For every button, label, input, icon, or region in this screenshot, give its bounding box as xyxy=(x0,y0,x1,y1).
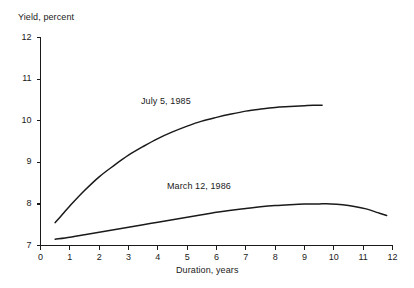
y-tick-label-7: 7 xyxy=(12,240,32,250)
axes-group xyxy=(37,38,393,250)
x-tick-label-3: 3 xyxy=(119,252,139,262)
x-tick-label-12: 12 xyxy=(383,252,403,262)
series-lines-group xyxy=(55,105,386,239)
yield-curve-chart: Yield, percent Duration, years July 5, 1… xyxy=(0,0,414,288)
x-tick-label-10: 10 xyxy=(324,252,344,262)
x-axis-title: Duration, years xyxy=(176,265,239,275)
x-tick-label-4: 4 xyxy=(148,252,168,262)
x-tick-label-5: 5 xyxy=(177,252,197,262)
x-tick-label-2: 2 xyxy=(89,252,109,262)
y-tick-label-12: 12 xyxy=(12,32,32,42)
series-label-july-1985: July 5, 1985 xyxy=(141,96,191,106)
x-tick-label-7: 7 xyxy=(236,252,256,262)
x-tick-label-1: 1 xyxy=(60,252,80,262)
chart-plot-area xyxy=(0,0,414,288)
series-label-march-1986: March 12, 1986 xyxy=(167,181,231,191)
x-tick-label-6: 6 xyxy=(207,252,227,262)
x-tick-label-9: 9 xyxy=(295,252,315,262)
x-tick-label-8: 8 xyxy=(265,252,285,262)
x-tick-label-0: 0 xyxy=(31,252,51,262)
y-tick-label-9: 9 xyxy=(12,156,32,166)
series-line-1 xyxy=(55,204,386,239)
x-tick-label-11: 11 xyxy=(353,252,373,262)
y-axis-title: Yield, percent xyxy=(18,12,74,22)
y-tick-label-10: 10 xyxy=(12,115,32,125)
y-tick-label-8: 8 xyxy=(12,198,32,208)
y-tick-label-11: 11 xyxy=(12,73,32,83)
